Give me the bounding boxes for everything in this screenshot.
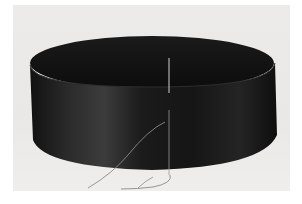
- ribbon-loop-illustration: [13, 5, 290, 191]
- photo: [13, 5, 290, 191]
